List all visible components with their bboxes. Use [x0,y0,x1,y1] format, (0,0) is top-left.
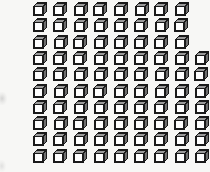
cube-icon [154,51,168,65]
cube-icon [195,116,209,130]
cube-icon [33,18,47,32]
cube-icon [154,149,168,163]
cube-icon [154,132,168,146]
cube-icon [134,51,148,65]
cube-icon [114,149,128,163]
cube-icon [154,116,168,130]
cube-icon [155,84,169,98]
cube-icon [74,2,88,16]
cube-icon [33,2,47,16]
cube-icon [195,149,209,163]
cube-icon [33,116,47,130]
cube-icon [114,132,128,146]
cube-icon [154,2,168,16]
cube-icon [33,35,47,49]
cube-icon [114,51,128,65]
cube-icon [54,116,68,130]
cube-icon [155,67,169,81]
cube-icon [74,18,88,32]
cube-icon [94,67,108,81]
cube-icon [53,100,67,114]
cube-grid-canvas [0,0,210,172]
cube-icon [114,2,128,16]
cube-icon [175,67,189,81]
cube-icon [195,132,209,146]
cube-icon [74,100,88,114]
cube-icon [94,149,108,163]
cube-icon [154,35,168,49]
cube-icon [114,84,128,98]
cube-icon [33,67,47,81]
cube-icon [53,132,67,146]
cube-icon [73,116,87,130]
cube-icon [54,35,68,49]
cube-icon [53,18,67,32]
cube-icon [93,84,107,98]
cube-icon [134,18,148,32]
cube-icon [114,35,128,49]
cube-icon [94,18,108,32]
cube-icon [175,84,189,98]
cube-icon [134,116,148,130]
cube-icon [134,100,148,114]
cube-icon [33,84,47,98]
cube-icon [195,100,209,114]
cube-icon [194,67,208,81]
cube-icon [175,149,189,163]
cube-icon [195,84,209,98]
cube-grid [0,0,210,172]
cube-icon [94,35,108,49]
cube-icon [53,2,67,16]
cube-icon [174,18,188,32]
cube-icon [135,2,149,16]
cube-icon [175,2,189,16]
cube-icon [174,116,188,130]
cube-icon [33,132,47,146]
cube-icon [195,51,209,65]
cube-icon [114,116,128,130]
cube-icon [54,84,68,98]
cube-icon [33,149,47,163]
cube-icon [74,132,88,146]
cube-icon [154,100,168,114]
cube-icon [175,35,189,49]
cube-icon [33,100,47,114]
cube-icon [175,100,189,114]
cube-icon [155,18,169,32]
cube-icon [175,132,189,146]
cube-icon [94,100,108,114]
cube-icon [53,67,67,81]
cube-icon [114,100,128,114]
cube-icon [74,84,88,98]
cube-icon [53,149,67,163]
cube-icon [94,132,108,146]
cube-icon [134,67,148,81]
cube-icon [134,149,148,163]
cube-icon [33,51,47,65]
cube-icon [53,51,67,65]
cube-icon [94,51,108,65]
cube-icon [93,2,107,16]
cube-icon [134,132,148,146]
cube-icon [114,67,128,81]
cube-icon [94,116,108,130]
cube-icon [74,67,88,81]
cube-icon [73,149,87,163]
cube-icon [134,35,148,49]
cube-icon [73,51,87,65]
cube-icon [175,51,189,65]
cube-icon [73,35,87,49]
cube-icon [134,84,148,98]
cube-icon [114,18,128,32]
